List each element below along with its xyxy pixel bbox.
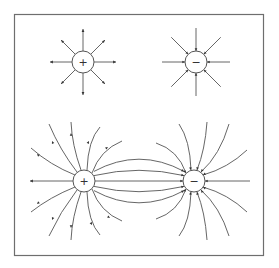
field-line [156,189,186,219]
dipole-field: + − [30,122,250,240]
arrowhead-icon [52,217,54,220]
isolated-negative-field: − [162,28,230,96]
arrowhead-icon [52,141,54,144]
field-line [179,124,191,170]
field-line [92,189,122,221]
field-line [171,70,188,87]
field-line [31,148,75,175]
field-line [31,187,75,212]
field-line [204,70,221,87]
arrowhead-icon [82,92,85,95]
negative-sign-label: − [191,56,200,69]
arrowhead-icon [113,61,116,64]
field-line [71,192,81,240]
field-line [179,192,191,236]
field-line [201,190,229,236]
arrowhead-icon [50,61,53,64]
dipole-negative-sign-label: − [189,175,198,188]
arrowhead-icon [107,215,110,218]
field-line [94,186,184,191]
field-line [94,170,184,175]
field-line [201,124,229,172]
field-line [156,143,186,173]
arrowhead-icon [30,180,33,183]
arrowhead-icon [90,222,92,225]
arrowhead-icon [82,29,85,32]
figure-frame [15,15,264,256]
dipole-positive-sign-label: + [79,175,88,188]
arrowhead-icon [37,201,40,204]
field-line [87,127,100,170]
field-line [171,37,188,54]
field-line [204,37,221,54]
field-line [71,122,81,170]
isolated-positive-field: + [50,29,116,95]
positive-sign-label: + [78,56,87,69]
field-line [87,192,100,235]
field-line [94,191,184,203]
field-line [94,159,184,171]
field-lines-canvas: + − + − [0,0,279,268]
field-line [197,122,207,170]
field-line [91,70,105,84]
field-line [61,70,75,84]
field-line [197,192,207,240]
field-lines-figure: + − + − [0,0,279,268]
field-line [92,141,122,173]
field-line [91,40,105,54]
arrowhead-icon [87,141,89,144]
field-line [61,40,75,54]
